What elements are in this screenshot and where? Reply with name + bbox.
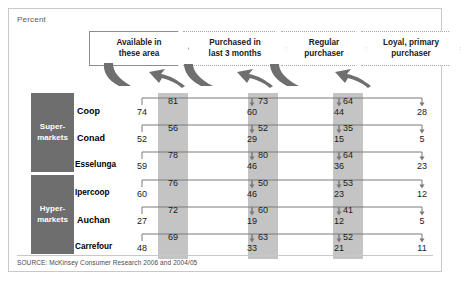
bracket-arrowhead-3 <box>419 238 424 242</box>
stage-value: 29 <box>241 134 263 144</box>
funnel-arrow-2b <box>184 64 213 86</box>
bracket-1 <box>142 98 252 105</box>
conversion-value: 52 <box>335 232 361 242</box>
conversion-value: 80 <box>250 150 276 160</box>
stage-value: 28 <box>411 107 433 117</box>
stage-value: 23 <box>328 189 350 199</box>
conversion-value: 64 <box>335 96 361 106</box>
conversion-value: 60 <box>250 205 276 215</box>
funnel-arrow-group <box>89 62 437 88</box>
bracket-arrowhead-3 <box>419 102 424 106</box>
stage-value: 15 <box>328 134 350 144</box>
bracket-connectors <box>9 177 443 204</box>
conversion-value: 69 <box>160 232 186 242</box>
stage-value: 11 <box>411 243 433 253</box>
stage-value: 59 <box>131 161 153 171</box>
conversion-value: 76 <box>160 178 186 188</box>
conversion-value: 64 <box>335 150 361 160</box>
stage-value: 21 <box>328 243 350 253</box>
stage-value: 36 <box>328 161 350 171</box>
bracket-arrowhead-3 <box>419 156 424 160</box>
bracket-connectors <box>9 231 443 258</box>
conversion-value: 35 <box>335 123 361 133</box>
bracket-connectors <box>9 122 443 149</box>
bracket-connectors <box>9 204 443 231</box>
bracket-arrowhead-3 <box>419 129 424 133</box>
conversion-value: 63 <box>250 232 276 242</box>
funnel-row: Ipercoop76505360462312 <box>9 177 443 204</box>
funnel-row: Conad5652355229155 <box>9 122 443 149</box>
unit-label: Percent <box>17 15 46 24</box>
stage-value: 74 <box>131 107 153 117</box>
funnel-arrow-3b <box>270 64 299 86</box>
funnel-row: Auchan7260412719125 <box>9 204 443 231</box>
stage-value: 5 <box>411 216 433 226</box>
conversion-value: 78 <box>160 150 186 160</box>
funnel-row: Coop81736474604428 <box>9 95 443 122</box>
stage-value: 44 <box>328 107 350 117</box>
conversion-value: 50 <box>250 178 276 188</box>
stage-chevron-3[interactable]: Regular purchaser <box>281 31 367 66</box>
funnel-stage-header: Available in these area Purchased in las… <box>89 31 437 66</box>
stage-chevron-1[interactable]: Available in these area <box>89 31 189 66</box>
bracket-1 <box>142 125 252 132</box>
stage-value: 5 <box>411 134 433 144</box>
bracket-connectors <box>9 149 443 176</box>
funnel-arrow-3a <box>237 69 273 88</box>
stage-value: 46 <box>241 161 263 171</box>
stage-value: 12 <box>411 189 433 199</box>
bracket-1 <box>142 207 252 214</box>
bracket-arrowhead-3 <box>419 184 424 188</box>
source-note: SOURCE: McKinsey Consumer Research 2006 … <box>17 259 197 266</box>
stage-value: 33 <box>241 243 263 253</box>
stage-chevron-4[interactable]: Loyal, primary purchaser <box>361 31 461 66</box>
stage-value: 52 <box>131 134 153 144</box>
stage-value: 19 <box>241 216 263 226</box>
stage-chevron-2[interactable]: Purchased in last 3 months <box>183 31 287 66</box>
stage-label-1: Available in these area <box>112 38 165 59</box>
funnel-arrow-1 <box>104 63 131 86</box>
conversion-value: 53 <box>335 178 361 188</box>
stage-value: 46 <box>241 189 263 199</box>
bracket-1 <box>142 180 252 187</box>
funnel-arrow-4a <box>335 69 371 88</box>
conversion-value: 56 <box>160 123 186 133</box>
stage-value: 23 <box>411 161 433 171</box>
source-divider <box>17 255 433 256</box>
stage-value: 48 <box>131 243 153 253</box>
exhibit-panel: Percent Available in these area Purchase… <box>8 8 442 272</box>
bracket-connectors <box>9 95 443 122</box>
bracket-1 <box>142 234 252 241</box>
conversion-value: 52 <box>250 123 276 133</box>
funnel-row: Carrefour69635248332111 <box>9 231 443 258</box>
conversion-value: 72 <box>160 205 186 215</box>
bracket-arrowhead-3 <box>419 211 424 215</box>
funnel-row: Esselunga78806459463623 <box>9 149 443 176</box>
conversion-value: 41 <box>335 205 361 215</box>
stage-label-4: Loyal, primary purchaser <box>379 38 443 59</box>
stage-value: 27 <box>131 216 153 226</box>
funnel-arrows-svg <box>89 62 437 88</box>
bracket-1 <box>142 152 252 159</box>
conversion-value: 81 <box>160 96 186 106</box>
stage-label-3: Regular purchaser <box>300 38 348 59</box>
conversion-value: 73 <box>250 96 276 106</box>
stage-value: 60 <box>241 107 263 117</box>
stage-label-2: Purchased in last 3 months <box>205 38 266 59</box>
stage-value: 60 <box>131 189 153 199</box>
stage-value: 12 <box>328 216 350 226</box>
funnel-arrow-2a <box>149 69 185 88</box>
